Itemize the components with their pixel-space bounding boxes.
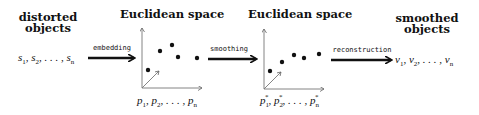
smoothed-plot-axes <box>264 29 324 89</box>
diagram-graphics <box>0 0 479 115</box>
embedded-plot-axes <box>142 28 202 88</box>
embedded-points <box>146 43 199 72</box>
smoothed-points <box>268 52 321 73</box>
